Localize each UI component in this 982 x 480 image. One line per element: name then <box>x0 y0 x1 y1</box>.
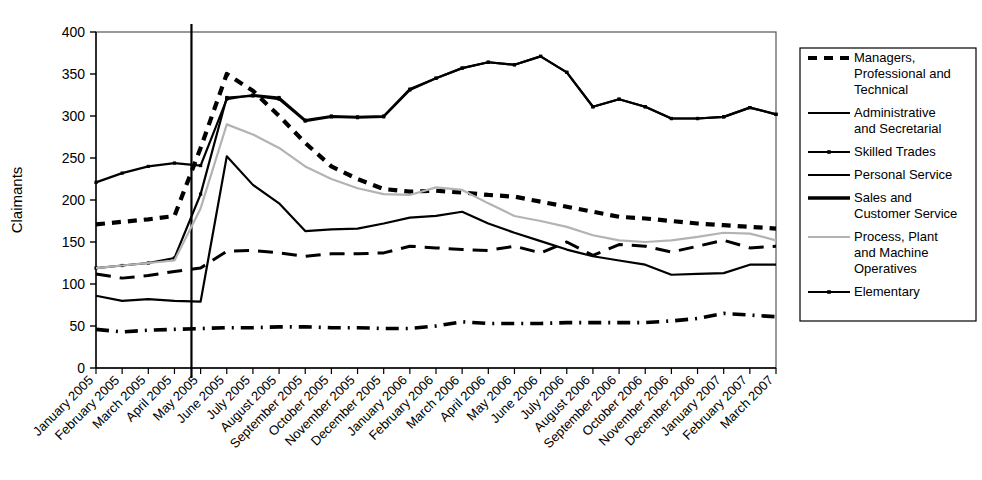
legend-item-label: Professional and <box>854 66 951 81</box>
series-marker <box>408 88 411 91</box>
y-tick-label: 150 <box>62 234 86 250</box>
series-line <box>96 313 776 331</box>
series-marker <box>748 106 751 109</box>
y-tick-label: 250 <box>62 150 86 166</box>
legend-marker-sample <box>827 150 831 154</box>
series-marker <box>304 119 307 122</box>
series-marker <box>356 115 359 118</box>
series-marker <box>539 55 542 58</box>
series-marker <box>199 164 202 167</box>
legend-item-label: Operatives <box>854 261 917 276</box>
y-tick-label: 100 <box>62 276 86 292</box>
legend-item-label: Administrative <box>854 105 936 120</box>
y-tick-label: 200 <box>62 192 86 208</box>
series-marker <box>382 114 385 117</box>
series-marker <box>434 77 437 80</box>
series-marker <box>199 193 202 196</box>
y-tick-label: 350 <box>62 66 86 82</box>
series-marker <box>513 63 516 66</box>
series-marker <box>565 71 568 74</box>
series-line <box>96 74 776 229</box>
legend-item-label: and Machine <box>854 245 928 260</box>
series-marker <box>147 165 150 168</box>
series-marker <box>591 105 594 108</box>
legend-item-label: Personal Service <box>854 167 952 182</box>
chart-figure: 050100150200250300350400ClaimantsJanuary… <box>0 0 982 480</box>
series-marker <box>487 61 490 64</box>
legend-item-label: Sales and <box>854 190 912 205</box>
series-marker <box>644 105 647 108</box>
series-line <box>96 56 776 182</box>
series-line <box>96 156 776 301</box>
series-marker <box>617 98 620 101</box>
series-marker <box>94 181 97 184</box>
legend-item-label: and Secretarial <box>854 121 942 136</box>
legend-item-label: Skilled Trades <box>854 144 936 159</box>
legend-item-label: Elementary <box>854 284 920 299</box>
series-marker <box>277 96 280 99</box>
series-marker <box>225 98 228 101</box>
legend-item-label: Technical <box>854 82 908 97</box>
series-marker <box>774 113 777 116</box>
series-line <box>96 240 776 278</box>
series-marker <box>461 67 464 70</box>
series-marker <box>251 93 254 96</box>
legend-item-label: Customer Service <box>854 206 957 221</box>
series-marker <box>696 117 699 120</box>
y-tick-label: 400 <box>62 24 86 40</box>
series-marker <box>173 161 176 164</box>
series-marker <box>330 114 333 117</box>
series-marker <box>722 115 725 118</box>
legend-item-label: Managers, <box>854 50 915 65</box>
y-tick-label: 300 <box>62 108 86 124</box>
line-chart-canvas: 050100150200250300350400ClaimantsJanuary… <box>0 0 982 480</box>
y-tick-label: 50 <box>69 318 85 334</box>
y-axis-title: Claimants <box>8 167 25 234</box>
legend-marker-sample <box>827 290 831 294</box>
series-line <box>96 56 776 268</box>
series-marker <box>121 172 124 175</box>
legend-item-label: Process, Plant <box>854 229 938 244</box>
series-marker <box>670 117 673 120</box>
